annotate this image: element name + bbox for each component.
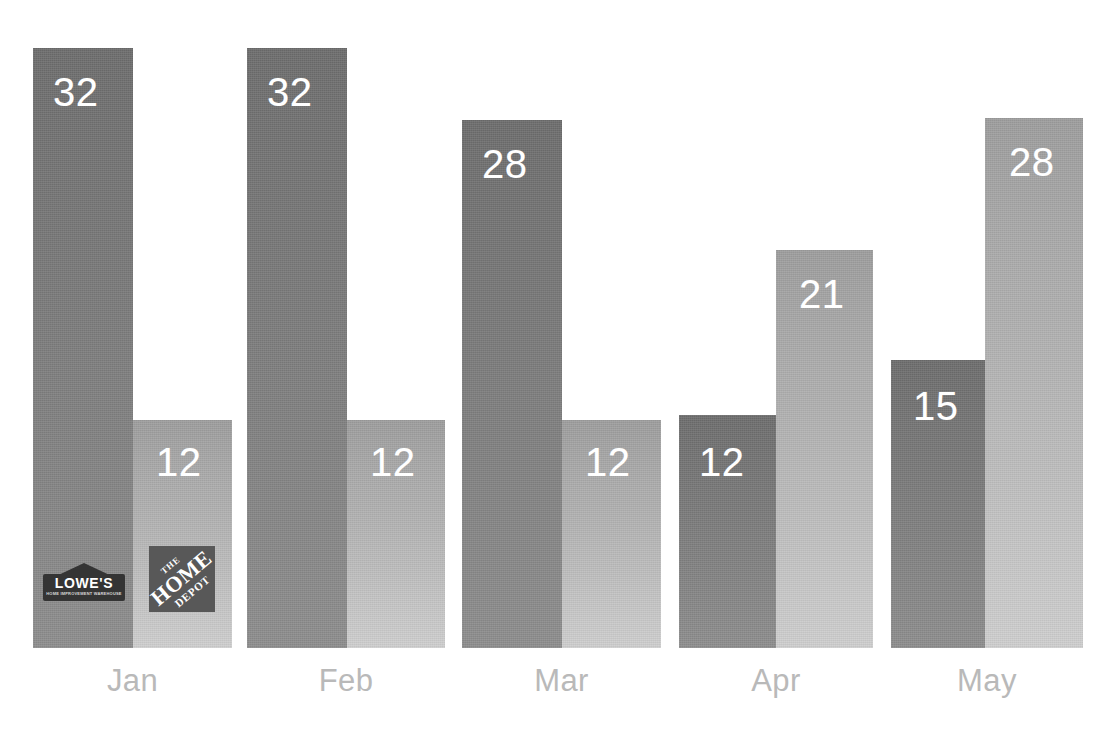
bar-apr-lowes[interactable]: 12 (679, 415, 776, 648)
bar-jan-homedepot[interactable]: 12 THE HOME DEPOT (133, 420, 232, 648)
bar-value-feb-lowes: 32 (267, 72, 313, 112)
bar-value-mar-lowes: 28 (482, 144, 528, 184)
bar-value-may-lowes: 15 (913, 386, 959, 426)
bar-chart: 32 LOWE'S HOME IMPROVEMENT WAREHOUSE 12 … (0, 0, 1115, 735)
bar-value-jan-lowes: 32 (53, 72, 99, 112)
bar-mar-lowes[interactable]: 28 (462, 120, 562, 648)
bar-value-mar-homedepot: 12 (585, 442, 631, 482)
bar-jan-lowes[interactable]: 32 LOWE'S HOME IMPROVEMENT WAREHOUSE (33, 48, 133, 648)
bar-may-homedepot[interactable]: 28 (985, 118, 1083, 648)
home-depot-logo: THE HOME DEPOT (149, 546, 215, 612)
category-label-jan: Jan (33, 664, 232, 698)
bar-value-feb-homedepot: 12 (370, 442, 416, 482)
home-depot-logo-inner: THE HOME DEPOT (149, 546, 215, 612)
lowes-tagline: HOME IMPROVEMENT WAREHOUSE (43, 592, 125, 596)
plot-area: 32 LOWE'S HOME IMPROVEMENT WAREHOUSE 12 … (0, 0, 1115, 735)
bar-value-apr-homedepot: 21 (799, 274, 845, 314)
category-label-feb: Feb (247, 664, 445, 698)
bar-mar-homedepot[interactable]: 12 (562, 420, 661, 648)
bar-may-lowes[interactable]: 15 (891, 360, 985, 648)
bar-value-jan-homedepot: 12 (156, 442, 202, 482)
bar-feb-lowes[interactable]: 32 (247, 48, 347, 648)
bar-value-may-homedepot: 28 (1009, 142, 1055, 182)
bar-feb-homedepot[interactable]: 12 (347, 420, 445, 648)
lowes-wordmark: LOWE'S (43, 576, 125, 590)
category-label-may: May (891, 664, 1083, 698)
category-label-mar: Mar (462, 664, 661, 698)
bar-apr-homedepot[interactable]: 21 (776, 250, 873, 648)
category-label-apr: Apr (679, 664, 873, 698)
lowes-logo: LOWE'S HOME IMPROVEMENT WAREHOUSE (43, 563, 125, 601)
bar-value-apr-lowes: 12 (699, 442, 745, 482)
